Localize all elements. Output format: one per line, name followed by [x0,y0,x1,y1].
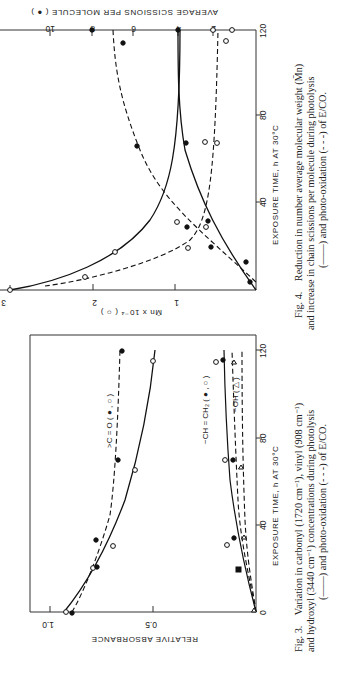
fig4-caption-line1: Reduction in number average molecular we… [293,64,305,281]
fig4-time-axis-label: EXPOSURE TIME, h AT 30°C [271,125,280,245]
fig4-sc-tick-10: 10 [45,24,55,34]
fig3-time-tick-120: 120 [258,344,268,358]
fig3-curves [64,350,256,612]
fig4-sc-tick-6: 6 [131,24,136,34]
figure-3-chart: 1.0 0.5 0 40 80 120 RELATIVE ABSORBANCE … [0,330,340,679]
fig4-time-tick-120: 120 [258,24,268,38]
fig3-label-hydroxyl: −OH ( △ ) [231,377,240,412]
fig4-time-tick-40: 40 [258,197,268,207]
fig3-caption-label: Fig. 3. [293,626,304,652]
fig4-mn-photooxidation-curve [45,30,218,286]
fig4-caption-line2: and increase in chain scissions per mole… [305,76,316,330]
svg-text:Fig. 3. Variation in car: Fig. 3. Variation in carbonyl (1720 cm⁻¹… [293,403,305,652]
fig4-mn-tick-2: 2 [92,298,97,308]
fig4-mn-photolysis-curve [10,30,180,290]
fig4-right-axis-label: AVERAGE SCISSIONS PER MOLECULE ( ● ) [31,8,218,17]
fig4-mn-tick-3: 3 [1,298,6,308]
figure-4-chart: 3 2 1 10 8 6 4 2 40 80 120 M̄n x 10⁻⁴ ( … [0,0,340,340]
fig3-abs-tick-1: 1.0 [42,620,54,630]
fig4-caption-line3: (——) and photo-oxidation (- - -) of E/CO… [317,92,329,268]
figure-3: 1.0 0.5 0 40 80 120 RELATIVE ABSORBANCE … [0,330,340,679]
fig3-time-tick-80: 80 [258,433,268,443]
fig4-time-tick-80: 80 [258,110,268,120]
fig4-axes [0,30,262,290]
fig3-label-vinyl: −CH = CH₂ ( ● , ○ ) [201,375,210,444]
fig3-vinyl-photolysis-curve [224,350,256,612]
fig3-hydroxyl-curve [242,350,256,612]
fig3-axes [30,335,262,612]
fig4-caption: Fig. 4. Reduction in number average mole… [293,64,329,330]
fig3-time-tick-0: 0 [258,610,268,615]
figure-4: 3 2 1 10 8 6 4 2 40 80 120 M̄n x 10⁻⁴ ( … [0,0,340,340]
fig4-curves [10,30,256,290]
fig3-carbonyl-photolysis-curve [64,350,155,612]
fig3-caption: Fig. 3. Variation in carbonyl (1720 cm⁻¹… [293,403,329,652]
fig3-absorbance-axis-label: RELATIVE ABSORBANCE [91,635,198,644]
fig3-caption-line2: and hydroxyl (3440 cm⁻¹) concentrations … [305,410,317,652]
fig3-caption-line3: (——) and photo-oxidation (- - -) of E/CO… [317,424,329,600]
fig4-caption-label: Fig. 4. [293,292,304,318]
fig3-series-labels: >C = O ( ● , ○ ) −CH = CH₂ ( ● , ○ ) −OH… [105,375,240,448]
fig3-abs-tick-05: 0.5 [145,620,157,630]
fig3-carbonyl-photooxidation-curve [72,350,120,612]
fig4-markers [8,28,253,293]
svg-text:Fig. 4. Reduction in num: Fig. 4. Reduction in number average mole… [293,64,305,318]
fig3-markers [64,349,257,615]
fig3-time-tick-40: 40 [258,520,268,530]
fig3-label-carbonyl: >C = O ( ● , ○ ) [105,394,114,448]
fig4-left-axis-label: M̄n x 10⁻⁴ ( ○ ) [100,308,162,317]
fig3-caption-line1: Variation in carbonyl (1720 cm⁻¹), vinyl… [293,403,305,615]
fig3-time-axis-label: EXPOSURE TIME, h AT 30°C [271,446,280,566]
fig4-mn-tick-1: 1 [174,298,179,308]
